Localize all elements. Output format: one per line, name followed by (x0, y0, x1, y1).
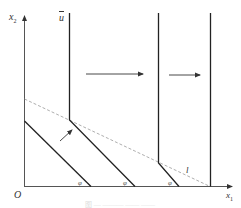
x1-axis-label: x1 (226, 191, 233, 202)
x2-axis-label: x2 (9, 12, 16, 24)
line-l (25, 99, 210, 186)
second-boundary (159, 13, 180, 187)
diagonal-arrow (60, 130, 72, 141)
u-bar-boundary (70, 13, 136, 187)
angle-phi-1: φ (78, 180, 82, 187)
line-l-label: l (186, 166, 189, 175)
angle-phi-2: φ (123, 180, 127, 187)
diagram-canvas (0, 0, 241, 208)
angle-phi-3: φ (168, 180, 172, 187)
u-bar-label: u (59, 13, 64, 23)
figure-caption: 图 — ——— —— —— (60, 199, 180, 208)
origin-label: O (14, 190, 21, 200)
